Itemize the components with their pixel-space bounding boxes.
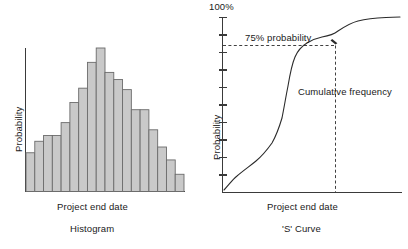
histogram-bar xyxy=(52,136,61,192)
scurve-curve-annotation: Cumulative frequency xyxy=(298,87,392,97)
scurve-threshold-arrow-icon xyxy=(331,39,338,45)
histogram-bar xyxy=(87,62,96,191)
histogram-bar xyxy=(166,160,175,192)
histogram-bar xyxy=(114,80,123,192)
histogram-bar xyxy=(149,130,158,192)
histogram-chart: Probability Project end date Histogram xyxy=(0,0,204,249)
histogram-bar xyxy=(79,88,88,191)
histogram-y-axis-label: Probability xyxy=(14,107,24,152)
scurve-y-axis-label: Probability xyxy=(212,115,222,160)
scurve-x-axis-label: Project end date xyxy=(267,202,338,212)
histogram-caption: Histogram xyxy=(70,224,114,234)
histogram-bar xyxy=(140,110,149,192)
scurve-caption: 'S' Curve xyxy=(282,224,321,234)
histogram-bar xyxy=(70,103,79,192)
scurve-top-tick-label: 100% xyxy=(209,2,234,12)
histogram-bar xyxy=(105,72,114,191)
histogram-bar xyxy=(35,141,44,191)
histogram-bars xyxy=(26,48,184,192)
histogram-bar xyxy=(96,48,105,192)
histogram-bar xyxy=(158,147,167,191)
histogram-bar xyxy=(61,123,70,192)
histogram-bar xyxy=(44,136,53,192)
histogram-x-axis-label: Project end date xyxy=(57,202,128,212)
scurve-threshold-annotation: 75% probability xyxy=(245,33,311,43)
histogram-bar xyxy=(123,90,132,192)
histogram-bar xyxy=(175,174,184,191)
histogram-bar xyxy=(26,153,35,192)
figure-root: Probability Project end date Histogram 1… xyxy=(0,0,408,249)
scurve-chart: 100% Probability 75% probability Cumulat… xyxy=(204,0,408,249)
histogram-bar xyxy=(131,110,140,192)
